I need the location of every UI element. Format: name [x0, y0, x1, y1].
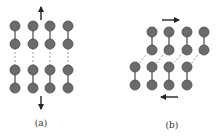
atom: [63, 65, 73, 75]
atom: [28, 65, 38, 75]
atom: [147, 80, 157, 90]
atom: [10, 21, 20, 31]
atom: [182, 80, 192, 90]
broken-bond: [139, 52, 148, 64]
atom: [63, 83, 73, 93]
panel-a: [10, 7, 73, 109]
atom: [147, 45, 157, 55]
atom: [28, 39, 38, 49]
atom: [63, 21, 73, 31]
atom: [45, 83, 55, 93]
atom: [10, 39, 20, 49]
atom: [199, 45, 209, 55]
panel-b-label: (b): [166, 120, 179, 130]
atom: [147, 62, 157, 72]
atom: [199, 27, 209, 37]
atom: [164, 80, 174, 90]
atom: [164, 27, 174, 37]
panel-b: [130, 20, 209, 97]
atom: [182, 62, 192, 72]
atom: [45, 21, 55, 31]
atom: [130, 80, 140, 90]
panel-a-label: (a): [35, 118, 47, 128]
atom: [28, 21, 38, 31]
broken-bond: [156, 52, 165, 64]
atom: [182, 27, 192, 37]
atom: [130, 62, 140, 72]
atom: [63, 39, 73, 49]
broken-bond: [173, 52, 183, 64]
atom: [147, 27, 157, 37]
broken-bond: [191, 52, 200, 64]
atom: [164, 45, 174, 55]
atom: [164, 62, 174, 72]
atom: [45, 65, 55, 75]
atom: [45, 39, 55, 49]
atom: [10, 83, 20, 93]
atom: [28, 83, 38, 93]
atom: [182, 45, 192, 55]
atom: [10, 65, 20, 75]
dislocation-diagram: [0, 0, 216, 139]
